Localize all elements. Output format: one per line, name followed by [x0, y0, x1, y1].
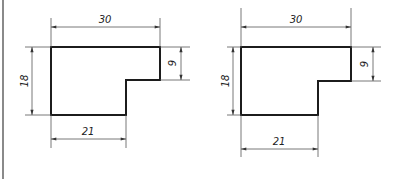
dimension-label-top-width: 30 [99, 14, 112, 25]
dimension-label-right-step-height: 9 [359, 61, 370, 67]
dimension-right-step-height: 9 [160, 47, 190, 80]
dimension-label-bottom-width: 21 [273, 136, 286, 147]
part-outline [51, 47, 160, 115]
dimension-top-width: 30 [51, 14, 160, 47]
drawing-right: 30 18 9 21 [220, 8, 381, 157]
dimension-top-width: 30 [241, 8, 351, 47]
dimension-label-right-step-height: 9 [167, 60, 178, 66]
part-outline [241, 47, 351, 115]
dimension-label-left-height: 18 [220, 75, 231, 88]
drawing-left: 30 18 9 21 [19, 14, 190, 148]
dimension-bottom-width: 21 [241, 115, 318, 157]
dimension-left-height: 18 [220, 47, 241, 115]
dimension-left-height: 18 [19, 47, 51, 115]
dimension-label-bottom-width: 21 [82, 126, 95, 137]
drawing-canvas: 30 18 9 21 [0, 0, 400, 179]
dimension-bottom-width: 21 [51, 115, 126, 148]
dimension-label-left-height: 18 [19, 75, 30, 88]
dimension-right-step-height: 9 [351, 47, 381, 81]
dimension-label-top-width: 30 [290, 14, 303, 25]
